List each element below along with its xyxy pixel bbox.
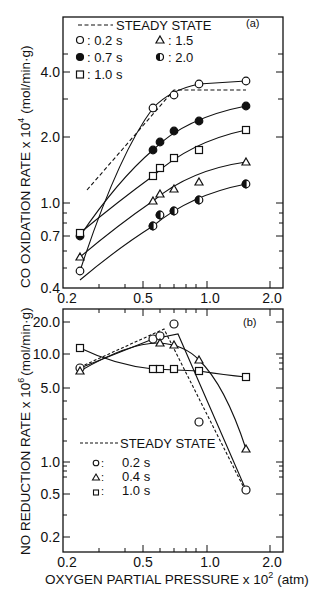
legend-open-square-icon: [77, 71, 84, 78]
ytick-label: 10.0: [33, 346, 60, 362]
legend-15: : 1.5: [168, 33, 193, 48]
xtick-label: 2.0: [262, 290, 282, 306]
legend-open-square-icon: [94, 490, 99, 495]
xtick-label: 2.0: [262, 554, 282, 570]
legend-steady: STEADY STATE: [120, 436, 216, 451]
panel-b-label: (b): [243, 316, 256, 328]
panel-b-ytick-labels: 20.0 10.0 5.0 1.0 0.5 0.2: [33, 314, 60, 545]
panel-b-xticks: [99, 309, 270, 552]
legend-open-circle-icon: [77, 37, 84, 44]
steady-state-line: [80, 329, 246, 492]
legend-open-triangle-icon: [156, 36, 164, 43]
panel-a-label: (a): [246, 17, 259, 29]
ytick-label: 20.0: [33, 314, 60, 330]
xtick-label: 1.0: [200, 290, 220, 306]
ytick-label: 2.0: [41, 129, 61, 145]
ytick-label: 4.0: [41, 64, 61, 80]
curve-02s: [80, 81, 246, 271]
panel-b-yticks: [63, 322, 283, 537]
panel-a-ylabel: CO OXIDATION RATE x 104(mol/min·g): [16, 45, 33, 288]
svg-text::: :: [101, 485, 104, 497]
panel-b-markers-10s: [77, 345, 250, 381]
legend-02: : 0.2 s: [87, 33, 123, 48]
svg-text::: :: [101, 457, 104, 469]
ytick-label: 1.0: [41, 195, 61, 211]
legend-filled-circle-icon: [77, 54, 84, 61]
ytick-label: 0.5: [41, 486, 61, 502]
legend-half-circle-icon: [157, 54, 164, 61]
legend-10: 1.0 s: [122, 483, 151, 498]
panel-b-xlabel: OXYGEN PARTIAL PRESSURE x 102(atm): [45, 570, 309, 587]
panel-a-ytick-labels: 4.0 2.0 1.0 0.7 0.4: [41, 64, 61, 296]
panel-b-xtick-labels: 0.2 0.5 1.0 2.0: [57, 554, 282, 570]
ytick-label: 5.0: [41, 380, 61, 396]
legend-07: : 0.7 s: [87, 50, 123, 65]
panel-b: 20.0 10.0 5.0 1.0 0.5 0.2 0.2 0.5 1.0 2.…: [16, 307, 309, 587]
svg-text::: :: [101, 471, 104, 483]
xtick-label: 0.5: [133, 290, 153, 306]
panel-a-markers-20: [149, 180, 250, 230]
panel-a-xtick-labels: 0.2 0.5 1.0 2.0: [57, 290, 282, 306]
panel-a: 4.0 2.0 1.0 0.7 0.4 0.2 0.5 1.0 2.0 CO O…: [16, 17, 283, 306]
curve-20: [80, 184, 246, 280]
ytick-label: 0.2: [41, 529, 61, 545]
panel-a-legend: STEADY STATE : 0.2 s : 0.7 s : 1.0 s : 1…: [77, 18, 212, 82]
panel-b-curves: [80, 329, 246, 492]
xtick-label: 0.2: [57, 290, 77, 306]
panel-a-xticks: [99, 281, 270, 288]
legend-steady: STEADY STATE: [116, 18, 212, 33]
legend-20: : 2.0: [168, 50, 193, 65]
panel-a-curves: [80, 81, 246, 280]
panel-a-markers-02s: [76, 77, 250, 275]
ytick-label: 0.7: [41, 228, 61, 244]
ytick-label: 1.0: [41, 454, 61, 470]
panel-b-ylabel: NO REDUCTION RATE x 106(mol/min·g): [16, 307, 33, 555]
xtick-label: 0.2: [57, 554, 77, 570]
legend-open-triangle-icon: [93, 474, 100, 480]
legend-02: 0.2 s: [122, 455, 151, 470]
legend-open-circle-icon: [93, 460, 99, 466]
curve-15: [80, 162, 246, 257]
panel-b-legend: STEADY STATE : 0.2 s : 0.4 s : 1.0 s: [80, 436, 216, 498]
steady-state-line: [87, 90, 246, 190]
xtick-label: 1.0: [200, 554, 220, 570]
legend-10: : 1.0 s: [87, 67, 123, 82]
xtick-label: 0.5: [133, 554, 153, 570]
legend-04: 0.4 s: [122, 469, 151, 484]
figure: 4.0 2.0 1.0 0.7 0.4 0.2 0.5 1.0 2.0 CO O…: [0, 0, 321, 594]
